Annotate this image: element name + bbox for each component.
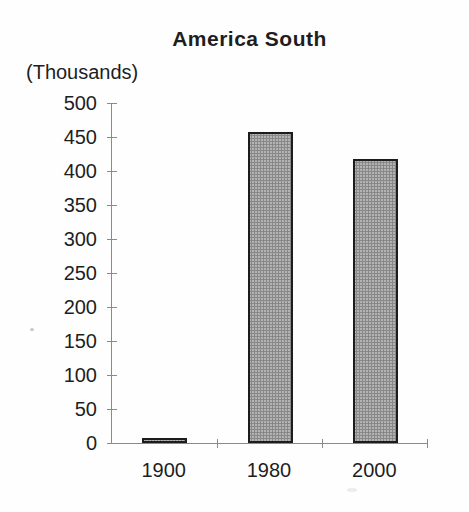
x-tick-mark [217, 439, 218, 448]
scan-artifact-smudge [347, 488, 357, 492]
y-tick-label-350: 350 [0, 195, 97, 215]
y-tick-label-50: 50 [0, 399, 97, 419]
x-axis-tick-labels: 190019802000 [111, 459, 427, 483]
y-tick-mark [107, 205, 117, 206]
x-tick-label-2000: 2000 [322, 459, 427, 481]
bar-1980 [248, 132, 293, 443]
x-tick-mark [322, 439, 323, 448]
y-tick-mark [107, 239, 117, 240]
y-tick-mark [107, 137, 117, 138]
y-axis-tick-labels: 050100150200250300350400450500 [0, 103, 97, 443]
plot-area [111, 103, 428, 444]
y-tick-mark [107, 307, 117, 308]
y-tick-mark [107, 409, 117, 410]
y-axis-unit-label: (Thousands) [26, 61, 138, 84]
x-tick-label-1900: 1900 [111, 459, 216, 481]
bar-chart-figure: America South (Thousands) 05010015020025… [0, 0, 469, 512]
x-tick-mark-end [427, 439, 428, 448]
y-tick-mark [107, 273, 117, 274]
y-tick-label-150: 150 [0, 331, 97, 351]
chart-title: America South [30, 27, 469, 51]
y-tick-mark [107, 375, 117, 376]
bar-2000 [353, 159, 398, 443]
y-tick-label-450: 450 [0, 127, 97, 147]
y-tick-label-100: 100 [0, 365, 97, 385]
y-tick-label-400: 400 [0, 161, 97, 181]
y-tick-label-500: 500 [0, 93, 97, 113]
y-tick-mark [107, 341, 117, 342]
y-tick-label-0: 0 [0, 433, 97, 453]
y-tick-mark [107, 443, 117, 444]
y-tick-mark [107, 171, 117, 172]
bar-1900 [142, 438, 187, 443]
y-tick-label-250: 250 [0, 263, 97, 283]
scan-artifact-dot [30, 328, 34, 331]
y-tick-label-200: 200 [0, 297, 97, 317]
x-tick-label-1980: 1980 [216, 459, 321, 481]
y-tick-mark [107, 103, 117, 104]
y-tick-label-300: 300 [0, 229, 97, 249]
